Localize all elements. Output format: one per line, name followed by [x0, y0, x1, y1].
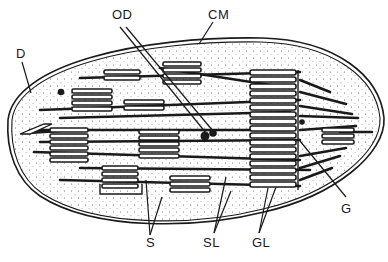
label-stroma-lamellae: SL: [203, 236, 220, 249]
granum-large: [250, 70, 296, 187]
label-granum: G: [341, 202, 352, 215]
granum: [322, 128, 354, 144]
chloroplast-diagram: [0, 0, 388, 262]
label-osmiophilic-droplets: OD: [112, 8, 133, 21]
label-d: D: [16, 47, 26, 60]
granum: [170, 176, 210, 192]
label-stroma: S: [146, 236, 155, 249]
label-grana-lamellae: GL: [252, 236, 270, 249]
granum: [139, 130, 179, 158]
label-chloroplast-membrane: CM: [208, 8, 229, 21]
